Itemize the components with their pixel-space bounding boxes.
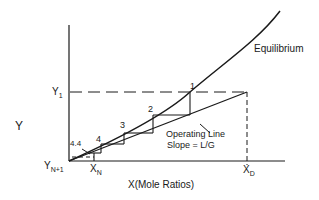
slope-label: Slope = L/G bbox=[167, 140, 215, 150]
operating-line-label: Operating Line bbox=[166, 129, 225, 139]
stage-label-3: 3 bbox=[120, 120, 125, 130]
stage-label-2: 2 bbox=[148, 104, 153, 114]
yn1-label: YN+1 bbox=[44, 160, 64, 173]
equilibrium-stage-diagram: Equilibrium Y Y1 YN+1 XN XD X(Mole Ratio… bbox=[0, 0, 319, 200]
stage-label-4: 4 bbox=[96, 134, 101, 144]
y-axis-label: Y bbox=[15, 119, 23, 133]
xd-label: XD bbox=[243, 164, 255, 177]
equilibrium-label: Equilibrium bbox=[254, 43, 303, 54]
y1-label: Y1 bbox=[52, 86, 63, 99]
stage-label-4-4: 4.4 bbox=[70, 139, 82, 148]
operating-line bbox=[69, 92, 247, 161]
xn-label: XN bbox=[90, 163, 102, 176]
stage-label-1: 1 bbox=[190, 81, 195, 91]
x-axis-label: X(Mole Ratios) bbox=[128, 179, 194, 190]
